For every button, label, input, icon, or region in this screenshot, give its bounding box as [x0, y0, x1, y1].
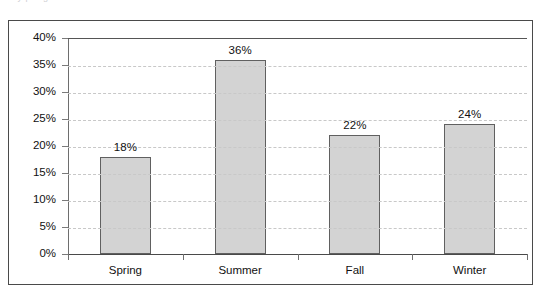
y-axis-tick-label: 10% — [0, 194, 56, 206]
y-axis-tick-label: 30% — [0, 86, 56, 98]
y-axis-tick-label: 0% — [0, 248, 56, 260]
gridline — [68, 174, 527, 175]
bar[interactable] — [444, 124, 495, 254]
y-axis-tick-label: 35% — [0, 59, 56, 71]
bar[interactable] — [329, 135, 380, 254]
y-axis-tick-label: 25% — [0, 113, 56, 125]
y-axis-tick-label: 5% — [0, 221, 56, 233]
y-axis-tick-label: 15% — [0, 167, 56, 179]
bar[interactable] — [215, 60, 266, 254]
x-axis-category-label: Winter — [420, 264, 520, 277]
bar-value-label: 36% — [210, 45, 270, 57]
x-axis-category-label: Spring — [75, 264, 175, 277]
bar-value-label: 22% — [325, 120, 385, 132]
gridline — [68, 228, 527, 229]
gridline — [68, 93, 527, 94]
cut-off-header-text-glyphs: a e y p e g — [0, 0, 49, 2]
x-axis-tick-mark — [68, 254, 69, 260]
bar-value-label: 18% — [95, 142, 155, 154]
gridline — [68, 66, 527, 67]
bar[interactable] — [100, 157, 151, 254]
cut-off-header-text: a e y p e g — [0, 0, 541, 11]
y-axis-tick-label: 20% — [0, 140, 56, 152]
x-axis-tick-mark — [183, 254, 184, 260]
x-axis-category-label: Summer — [190, 264, 290, 277]
gridline — [68, 201, 527, 202]
x-axis-tick-mark — [527, 254, 528, 260]
x-axis-category-label: Fall — [305, 264, 405, 277]
x-axis-tick-mark — [298, 254, 299, 260]
x-axis-tick-mark — [412, 254, 413, 260]
y-axis-tick-label: 40% — [0, 32, 56, 44]
bar-value-label: 24% — [440, 109, 500, 121]
